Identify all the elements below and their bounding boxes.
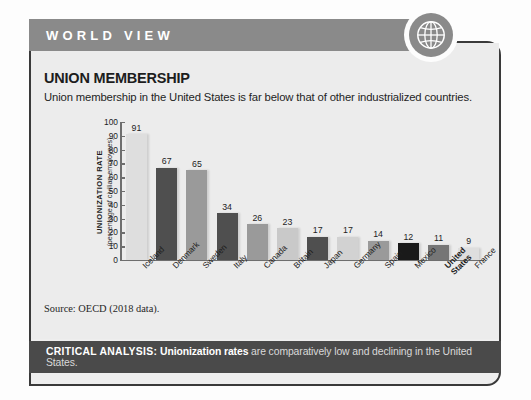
critical-analysis-label: CRITICAL ANALYSIS: (46, 346, 157, 357)
y-tick-label: 80 (96, 145, 118, 155)
bar-value-label: 65 (192, 159, 202, 169)
critical-analysis-emphasis: Unionization rates (160, 346, 248, 357)
y-tick-label: 20 (96, 227, 118, 237)
y-tick-label: 70 (96, 158, 118, 168)
world-view-banner: WORLD VIEW (29, 19, 449, 51)
y-tick-label: 40 (96, 200, 118, 210)
bar-slot: 26 (247, 122, 268, 260)
world-view-figure: WORLD VIEW UNION MEMBERSHIP Union member… (0, 0, 531, 400)
bar-slot: 34 (217, 122, 238, 260)
critical-analysis-banner: CRITICAL ANALYSIS: Unionization rates ar… (29, 341, 501, 373)
bar-value-label: 34 (222, 202, 232, 212)
world-view-label: WORLD VIEW (46, 28, 174, 43)
y-tick-label: 50 (96, 186, 118, 196)
bar-value-label: 11 (434, 233, 443, 243)
bar-series: 91676534262317171412119 (122, 122, 484, 260)
y-tick-label: 90 (96, 131, 118, 141)
bar (126, 134, 147, 260)
bar-chart: UNIONIZATION RATE (percentage of civilia… (96, 122, 486, 292)
critical-analysis-text: CRITICAL ANALYSIS: Unionization rates ar… (46, 346, 501, 368)
source-note: Source: OECD (2018 data). (44, 303, 159, 314)
chart-subtitle: Union membership in the United States is… (44, 91, 484, 103)
bar-value-label: 26 (252, 213, 262, 223)
bar-slot: 67 (156, 122, 177, 260)
bar-value-label: 17 (343, 225, 353, 235)
y-tick-label: 0 (96, 255, 118, 265)
bar-slot: 17 (307, 122, 328, 260)
bar-value-label: 12 (403, 232, 413, 242)
y-tick-label: 60 (96, 172, 118, 182)
bar-slot: 65 (186, 122, 207, 260)
bar-slot: 12 (398, 122, 419, 260)
bar-slot: 14 (368, 122, 389, 260)
bar-value-label: 67 (162, 156, 172, 166)
bar-slot: 11 (428, 122, 449, 260)
bar-slot: 9 (458, 122, 479, 260)
chart-title: UNION MEMBERSHIP (44, 70, 190, 86)
y-tick-label: 100 (96, 117, 118, 127)
bar-value-label: 91 (132, 123, 142, 133)
globe-icon (409, 13, 453, 57)
y-tick-label: 10 (96, 241, 118, 251)
bar-slot: 17 (337, 122, 358, 260)
bar (247, 224, 268, 260)
bar-slot: 91 (126, 122, 147, 260)
bar-value-label: 23 (283, 217, 293, 227)
globe-icon-badge (404, 8, 458, 62)
bar-value-label: 9 (466, 236, 471, 246)
bar-slot: 23 (277, 122, 298, 260)
bar-value-label: 17 (313, 225, 323, 235)
y-tick-label: 30 (96, 214, 118, 224)
bar-value-label: 14 (373, 229, 383, 239)
